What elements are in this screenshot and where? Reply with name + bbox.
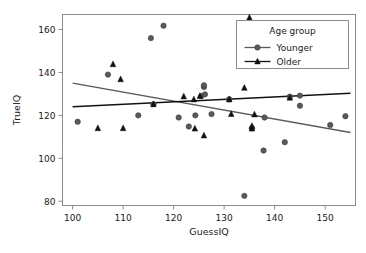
x-tick-label-120: 120 [165, 213, 182, 223]
data-point-younger-15 [242, 193, 247, 198]
data-point-younger-18 [262, 115, 267, 120]
data-point-older-1 [110, 61, 116, 67]
data-point-younger-6 [176, 115, 181, 120]
data-point-younger-21 [297, 93, 302, 98]
x-tick-label-100: 100 [64, 213, 81, 223]
data-point-younger-5 [161, 23, 166, 28]
data-point-older-15 [249, 123, 255, 129]
data-point-older-7 [192, 125, 198, 131]
data-point-younger-17 [261, 148, 266, 153]
data-point-older-3 [120, 125, 126, 131]
y-tick-label-80: 80 [44, 197, 56, 207]
x-tick-label-150: 150 [317, 213, 334, 223]
legend-label-older: Older [277, 57, 302, 67]
data-point-older-13 [247, 14, 253, 20]
data-point-younger-1 [105, 72, 110, 77]
x-tick-label-110: 110 [115, 213, 132, 223]
data-point-younger-3 [148, 35, 153, 40]
x-axis-title: GuessIQ [189, 226, 228, 237]
data-point-younger-2 [136, 113, 141, 118]
data-point-older-6 [191, 96, 197, 102]
data-point-older-2 [118, 76, 124, 82]
fit-line-younger [73, 83, 351, 132]
data-point-younger-7 [186, 124, 191, 129]
y-tick-label-100: 100 [38, 154, 55, 164]
data-point-younger-11 [201, 83, 206, 88]
legend-title: Age group [269, 26, 316, 36]
scatter-plot-figure: 10011012013014015080100120140160GuessIQT… [0, 0, 366, 253]
data-point-younger-22 [297, 103, 302, 108]
data-point-older-9 [201, 132, 207, 138]
x-tick-label-130: 130 [216, 213, 233, 223]
data-point-older-0 [95, 125, 101, 131]
data-point-younger-24 [343, 114, 348, 119]
data-point-younger-13 [209, 111, 214, 116]
fit-line-older [73, 93, 351, 107]
y-axis-title: TrueIQ [11, 95, 22, 126]
data-point-older-12 [242, 85, 248, 91]
data-point-younger-12 [202, 92, 207, 97]
legend-label-younger: Younger [276, 43, 313, 53]
legend-marker-younger [255, 45, 260, 50]
data-point-younger-19 [282, 139, 287, 144]
data-point-younger-0 [75, 119, 80, 124]
data-point-older-16 [252, 111, 258, 117]
x-tick-label-140: 140 [266, 213, 283, 223]
y-tick-label-140: 140 [38, 68, 55, 78]
plot-canvas: 10011012013014015080100120140160GuessIQT… [0, 0, 366, 253]
data-point-younger-23 [328, 122, 333, 127]
y-tick-label-160: 160 [38, 25, 55, 35]
data-point-older-5 [181, 93, 187, 99]
data-point-younger-8 [193, 113, 198, 118]
y-tick-label-120: 120 [38, 111, 55, 121]
